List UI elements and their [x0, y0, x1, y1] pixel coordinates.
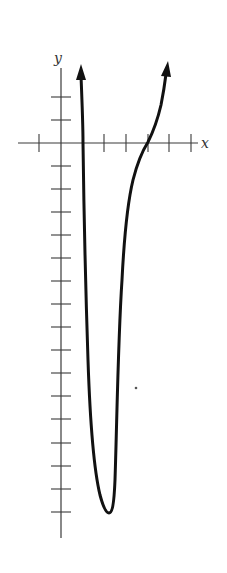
right-arrowhead-icon — [161, 61, 171, 77]
function-curve — [81, 74, 166, 513]
speck-mark — [135, 387, 138, 390]
left-arrowhead-icon — [76, 64, 86, 80]
graph: y x — [0, 0, 227, 573]
x-axis-label: x — [201, 135, 209, 151]
y-axis-label: y — [53, 50, 63, 66]
